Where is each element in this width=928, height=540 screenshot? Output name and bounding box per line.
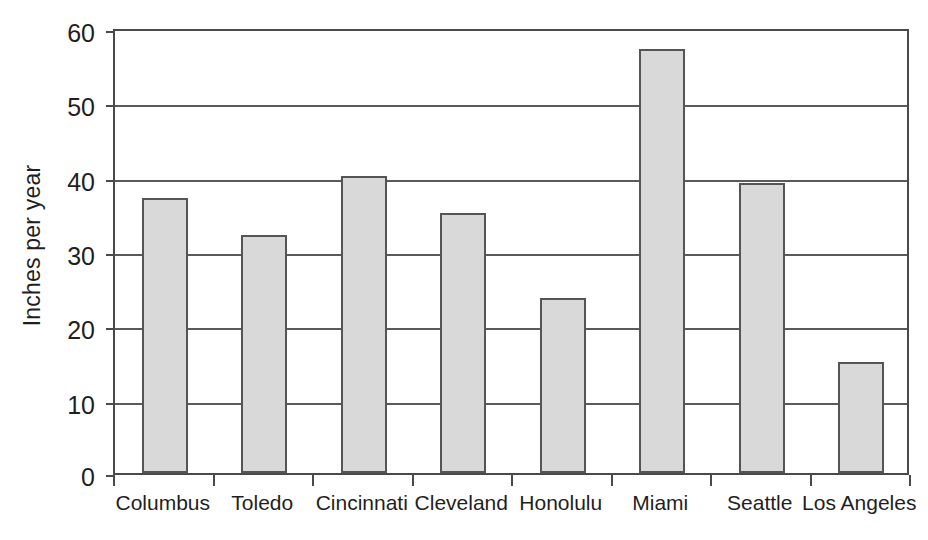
x-axis: ColumbusToledoCincinnatiClevelandHonolul…: [113, 475, 909, 535]
y-axis-tick: 10: [106, 403, 115, 405]
bar-chart: Inches per year 0102030405060 ColumbusTo…: [0, 0, 928, 540]
y-axis-tick: 20: [106, 328, 115, 330]
y-axis-title: Inches per year: [10, 0, 56, 490]
x-axis-label: Cincinnati: [316, 491, 408, 514]
y-axis-tick: 60: [106, 31, 115, 33]
y-axis-tick: 50: [106, 105, 115, 107]
bar: [639, 49, 685, 473]
bar: [540, 298, 586, 473]
x-axis-tick: [412, 475, 414, 486]
x-axis-tick: [909, 475, 911, 486]
y-axis-title-text: Inches per year: [20, 164, 47, 326]
x-axis-label: Honolulu: [519, 491, 602, 514]
x-axis-tick: [810, 475, 812, 486]
bar: [341, 176, 387, 473]
x-axis-tick: [113, 475, 115, 486]
x-axis-label: Miami: [632, 491, 688, 514]
y-axis-tick-label: 30: [67, 244, 95, 269]
y-axis-tick-label: 20: [67, 318, 95, 343]
y-axis-tick-label: 40: [67, 169, 95, 194]
x-axis-tick: [312, 475, 314, 486]
bar: [739, 183, 785, 473]
x-axis-label: Cleveland: [415, 491, 508, 514]
x-axis-tick: [710, 475, 712, 486]
y-axis-tick-label: 0: [81, 465, 95, 490]
y-axis-tick: 30: [106, 254, 115, 256]
x-axis-label: Los Angeles: [802, 491, 916, 514]
bar: [838, 362, 884, 474]
x-axis-tick: [511, 475, 513, 486]
x-axis-label: Toledo: [231, 491, 293, 514]
x-axis-label: Columbus: [115, 491, 210, 514]
x-axis-label: Seattle: [727, 491, 792, 514]
x-axis-tick: [213, 475, 215, 486]
bar: [241, 235, 287, 473]
bar: [440, 213, 486, 473]
x-axis-tick: [611, 475, 613, 486]
plot-area: 0102030405060: [113, 29, 909, 475]
y-axis-tick-label: 50: [67, 95, 95, 120]
y-axis-tick: 40: [106, 180, 115, 182]
y-axis-tick-label: 10: [67, 392, 95, 417]
y-axis-tick-label: 60: [67, 21, 95, 46]
bars: [115, 31, 907, 473]
bar: [142, 198, 188, 473]
